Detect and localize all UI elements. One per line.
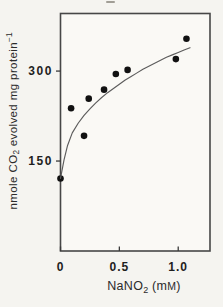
x-axis-label: NaNO2 (mM) xyxy=(107,279,180,295)
x-tick-label-0_5: 0.5 xyxy=(110,260,130,275)
x-axis-label-text: NaNO xyxy=(107,279,143,293)
y-tick-label-300: 300 xyxy=(0,63,53,79)
figure: nmole CO2 evolved mg protein−1 150 300 0… xyxy=(0,0,223,307)
x-axis-label-unit-close: ) xyxy=(176,279,180,293)
data-point xyxy=(124,67,131,74)
x-axis-label-unit-molar: M xyxy=(167,280,176,292)
data-point xyxy=(183,35,190,42)
y-tick-label-150: 150 xyxy=(0,153,53,169)
data-point xyxy=(81,133,88,140)
y-axis-label-text-2: evolved mg protein xyxy=(7,42,19,150)
y-axis-label-superscript: −1 xyxy=(5,33,14,42)
data-point xyxy=(173,56,180,63)
data-point xyxy=(101,86,108,93)
y-axis-label: nmole CO2 evolved mg protein−1 xyxy=(5,33,21,210)
data-point xyxy=(113,71,120,78)
x-axis-label-unit-open: (m xyxy=(148,279,167,293)
data-point xyxy=(85,95,92,102)
x-tick-label-1_0: 1.0 xyxy=(168,260,188,275)
x-tick-label-0: 0 xyxy=(57,260,65,275)
data-point xyxy=(68,105,75,112)
